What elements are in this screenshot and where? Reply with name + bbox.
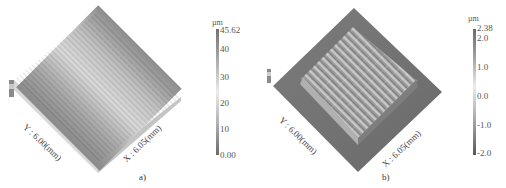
panel-b-colorbar-unit: µm xyxy=(468,14,479,23)
panel-a-colorbar-tick: 20 xyxy=(220,99,229,108)
panel-b-colorbar xyxy=(473,29,476,155)
panel-a-surface-plot xyxy=(0,0,506,188)
panel-a-colorbar-max: 45.62 xyxy=(220,26,240,35)
panel-a-colorbar-tick: 10 xyxy=(220,125,229,134)
panel-a-colorbar-tick: 0.00 xyxy=(220,151,236,160)
panel-b-colorbar-max: 2.38 xyxy=(477,24,493,33)
panel-a-colorbar-tick: 30 xyxy=(220,73,229,82)
panel-b-colorbar-tick: -1.0 xyxy=(477,121,491,130)
panel-b-colorbar-tick: 0.0 xyxy=(477,92,488,101)
panel-a-label: a) xyxy=(139,172,146,182)
panel-b-label: b) xyxy=(382,172,390,182)
panel-b-colorbar-tick: 2.0 xyxy=(477,34,488,43)
panel-b-colorbar-tick: 1.0 xyxy=(477,63,488,72)
panel-a-colorbar-tick: 40 xyxy=(220,45,229,54)
panel-a-colorbar xyxy=(216,29,219,155)
panel-b-colorbar-tick: -2.0 xyxy=(477,149,491,158)
